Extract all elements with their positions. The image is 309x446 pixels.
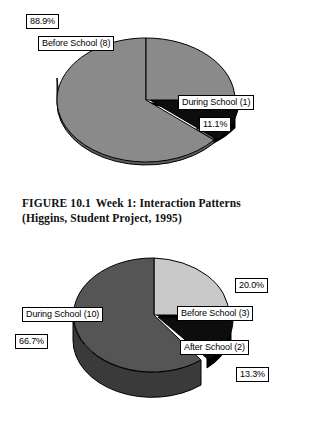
callout-percent-before-school-w1: 88.9% (26, 14, 59, 29)
figure-title: Week 1: Interaction Patterns (96, 197, 241, 209)
callout-percent-before-school-w2: 20.0% (235, 278, 268, 293)
callout-label-before-school-w2: Before School (3) (177, 306, 253, 321)
callout-percent-after-school-w2: 13.3% (236, 367, 269, 382)
pie-chart-week-2: 20.0% Before School (3) After School (2)… (0, 245, 309, 446)
callout-label-before-school-w1: Before School (8) (38, 36, 114, 51)
figure-caption: FIGURE 10.1Week 1: Interaction Patterns … (22, 196, 292, 226)
pie-chart-week-1: 88.9% Before School (8) During School (1… (0, 0, 309, 190)
figure-number: FIGURE 10.1 (22, 197, 91, 209)
callout-percent-during-school-w1: 11.1% (199, 117, 231, 132)
callout-label-during-school-w2: During School (10) (22, 307, 103, 322)
callout-label-after-school-w2: After School (2) (180, 340, 249, 355)
slice-top-before-school-upper (146, 38, 235, 100)
figure-source: (Higgins, Student Project, 1995) (22, 211, 292, 226)
callout-percent-during-school-w2: 66.7% (15, 334, 48, 349)
callout-label-during-school-w1: During School (1) (178, 95, 254, 110)
